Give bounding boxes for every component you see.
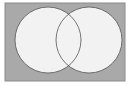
venn-diagram	[0, 0, 133, 86]
